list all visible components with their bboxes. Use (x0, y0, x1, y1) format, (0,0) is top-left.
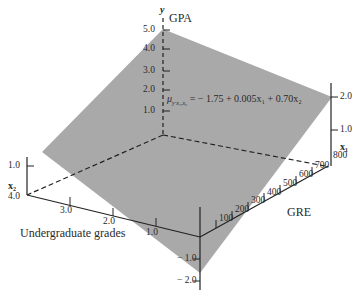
y-tick-2: 2.0 (143, 85, 155, 95)
gre-tick-100: 100 (219, 214, 233, 224)
grade-tick-4: 4.0 (8, 192, 20, 202)
gre-tick-400: 400 (267, 188, 281, 198)
right-tick-1: 1.0 (340, 125, 352, 135)
gre-tick-800: 800 (333, 151, 347, 161)
x1-axis-title: GRE (287, 206, 311, 218)
y-tick-3: 3.0 (143, 66, 155, 76)
grade-tick-3: 3.0 (60, 206, 72, 216)
y-tick-5: 5.0 (143, 25, 155, 35)
grade-tick-1: 1.0 (146, 228, 158, 238)
gre-tick-300: 300 (251, 196, 265, 206)
left-tick-1: 1.0 (8, 161, 20, 171)
equation-body: = − 1.75 + 0.005x₁ + 0.70x₂ (187, 93, 302, 104)
equation-subscript: y·x₁,x₂ (172, 100, 187, 106)
x2-axis-symbol: x₂ (8, 181, 16, 191)
right-axis-ticks (331, 97, 338, 130)
gre-tick-200: 200 (235, 205, 249, 215)
regression-equation: μy·x₁,x₂ = − 1.75 + 0.005x₁ + 0.70x₂ (167, 94, 302, 106)
gre-tick-700: 700 (315, 161, 329, 171)
y-tick-1: 1.0 (143, 106, 155, 116)
gre-tick-600: 600 (299, 170, 313, 180)
y-axis-symbol: y (160, 5, 164, 15)
right-tick-2: 2.0 (340, 92, 352, 102)
front-tick-neg2: − 2.0 (177, 276, 197, 286)
y-axis-title: GPA (169, 12, 192, 24)
x2-axis-title: Undergraduate grades (20, 227, 125, 239)
gre-tick-500: 500 (283, 179, 297, 189)
front-tick-neg1: − 1.0 (177, 254, 197, 264)
y-tick-4: 4.0 (143, 44, 155, 54)
